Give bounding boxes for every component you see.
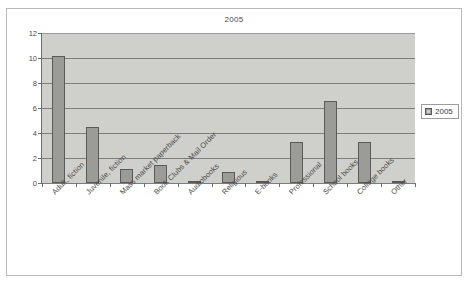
x-tick-mark-end <box>415 183 416 187</box>
x-tick-mark-9 <box>347 183 348 187</box>
bar-1[interactable] <box>86 127 99 183</box>
y-tick-mark-10 <box>38 58 42 59</box>
gridline-10 <box>42 58 415 59</box>
y-tick-mark-12 <box>38 33 42 34</box>
x-tick-mark-6 <box>245 183 246 187</box>
y-axis-label-2: 2 <box>33 154 37 163</box>
y-axis-label-6: 6 <box>33 104 37 113</box>
y-tick-mark-8 <box>38 83 42 84</box>
x-axis-label-3: Book Clubs & Mail Order <box>152 130 218 196</box>
x-axis-label-10: Other <box>389 176 409 196</box>
gridline-12 <box>42 33 415 34</box>
x-tick-mark-1 <box>76 183 77 187</box>
y-axis-label-8: 8 <box>33 79 37 88</box>
chart-title: 2005 <box>7 15 461 24</box>
y-axis-label-10: 10 <box>29 54 37 63</box>
chart-legend[interactable]: 2005 <box>421 104 459 119</box>
legend-label-2005: 2005 <box>435 107 453 116</box>
bar-8[interactable] <box>324 101 337 183</box>
plot-area: 024681012Adult, fictionJuvenile, fiction… <box>41 33 415 184</box>
legend-swatch-2005 <box>425 108 432 115</box>
gridline-6 <box>42 108 415 109</box>
x-tick-mark-4 <box>178 183 179 187</box>
y-axis-label-4: 4 <box>33 129 37 138</box>
y-axis-label-0: 0 <box>33 179 37 188</box>
x-axis-label-4: Audiobooks <box>186 162 221 197</box>
x-tick-mark-7 <box>279 183 280 187</box>
y-tick-mark-4 <box>38 133 42 134</box>
x-axis-label-2: Mass market paperback <box>118 132 182 196</box>
x-tick-mark-10 <box>381 183 382 187</box>
chart-frame: 2005 024681012Adult, fictionJuvenile, fi… <box>6 8 462 276</box>
y-tick-mark-2 <box>38 158 42 159</box>
x-tick-mark-0 <box>42 183 43 187</box>
x-tick-mark-8 <box>313 183 314 187</box>
y-tick-mark-6 <box>38 108 42 109</box>
gridline-8 <box>42 83 415 84</box>
bar-0[interactable] <box>52 56 65 183</box>
x-tick-mark-3 <box>144 183 145 187</box>
x-tick-mark-2 <box>110 183 111 187</box>
x-tick-mark-5 <box>212 183 213 187</box>
y-axis-label-12: 12 <box>29 29 37 38</box>
